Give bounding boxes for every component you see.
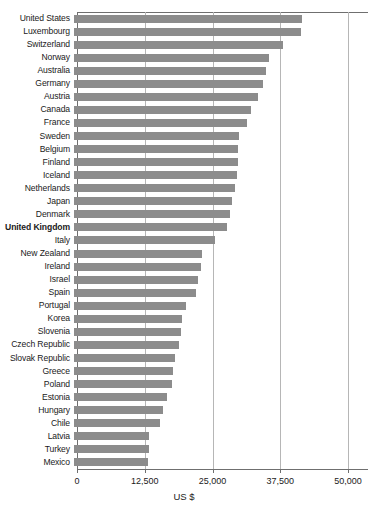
bar: [74, 223, 227, 231]
category-label: Turkey: [0, 445, 74, 454]
bar-row: Denmark: [0, 208, 376, 221]
bar-row: Spain: [0, 286, 376, 299]
bar: [74, 54, 269, 62]
category-label: United Kingdom: [0, 223, 74, 232]
bar-row: United States: [0, 12, 376, 25]
bar-track: [74, 77, 376, 90]
bar: [74, 93, 258, 101]
category-label: Mexico: [0, 458, 74, 467]
bar: [74, 132, 239, 140]
bar-track: [74, 25, 376, 38]
category-label: Netherlands: [0, 184, 74, 193]
bar-row: France: [0, 116, 376, 129]
bar-track: [74, 208, 376, 221]
bar-row: Portugal: [0, 299, 376, 312]
tick-mark: [348, 469, 349, 473]
category-label: Sweden: [0, 132, 74, 141]
bar-track: [74, 51, 376, 64]
bar-row: Hungary: [0, 404, 376, 417]
bar-track: [74, 456, 376, 469]
bar-row: Turkey: [0, 443, 376, 456]
bar-track: [74, 64, 376, 77]
category-label: Portugal: [0, 301, 74, 310]
bar-row: Estonia: [0, 391, 376, 404]
bar-track: [74, 260, 376, 273]
bar-row: Korea: [0, 312, 376, 325]
bar: [74, 41, 283, 49]
bar: [74, 210, 230, 218]
bar-row: Slovenia: [0, 325, 376, 338]
bar-track: [74, 273, 376, 286]
bar: [74, 236, 215, 244]
category-label: Canada: [0, 105, 74, 114]
category-label: Finland: [0, 158, 74, 167]
bar-row: Luxembourg: [0, 25, 376, 38]
bar-row: Australia: [0, 64, 376, 77]
bar-track: [74, 378, 376, 391]
category-label: Switzerland: [0, 40, 74, 49]
category-label: France: [0, 118, 74, 127]
bar-row: Slovak Republic: [0, 351, 376, 364]
bar-track: [74, 312, 376, 325]
bar-track: [74, 38, 376, 51]
bar-track: [74, 195, 376, 208]
category-label: Poland: [0, 380, 74, 389]
bar-track: [74, 286, 376, 299]
bar-row: Switzerland: [0, 38, 376, 51]
category-label: Hungary: [0, 406, 74, 415]
bar: [74, 15, 302, 23]
bar-track: [74, 130, 376, 143]
bar-track: [74, 12, 376, 25]
bar: [74, 315, 182, 323]
bar-row: Latvia: [0, 430, 376, 443]
x-tick-label: 37,500: [266, 476, 294, 486]
bar-row: Austria: [0, 90, 376, 103]
bar-track: [74, 116, 376, 129]
bar: [74, 28, 301, 36]
bar-row: Italy: [0, 234, 376, 247]
tick-mark: [77, 469, 78, 473]
bar-row: Ireland: [0, 260, 376, 273]
bar: [74, 445, 149, 453]
category-label: Chile: [0, 419, 74, 428]
tick-mark: [145, 469, 146, 473]
bar: [74, 67, 266, 75]
bar-row: Greece: [0, 365, 376, 378]
bar-track: [74, 430, 376, 443]
category-label: Korea: [0, 314, 74, 323]
category-label: United States: [0, 14, 74, 23]
bar-row: Sweden: [0, 130, 376, 143]
bar-row: Czech Republic: [0, 338, 376, 351]
category-label: Slovenia: [0, 327, 74, 336]
bar-rows: United StatesLuxembourgSwitzerlandNorway…: [0, 12, 376, 469]
bar: [74, 276, 198, 284]
bar: [74, 184, 235, 192]
category-label: Luxembourg: [0, 27, 74, 36]
bar-row: Belgium: [0, 143, 376, 156]
bar: [74, 367, 173, 375]
bar: [74, 419, 160, 427]
bar: [74, 106, 251, 114]
x-axis-line: [77, 469, 368, 470]
bar-track: [74, 351, 376, 364]
bar-track: [74, 90, 376, 103]
bar-row: Israel: [0, 273, 376, 286]
bar-track: [74, 247, 376, 260]
tick-mark: [213, 469, 214, 473]
bar: [74, 145, 238, 153]
x-tick-label: 12,500: [131, 476, 159, 486]
tick-mark: [280, 469, 281, 473]
bar-row: Norway: [0, 51, 376, 64]
bar-row: United Kingdom: [0, 221, 376, 234]
category-label: Italy: [0, 236, 74, 245]
category-label: Japan: [0, 197, 74, 206]
bar-row: Canada: [0, 103, 376, 116]
bar-row: Japan: [0, 195, 376, 208]
bar-track: [74, 182, 376, 195]
category-label: Norway: [0, 53, 74, 62]
bar-row: Finland: [0, 156, 376, 169]
category-label: Germany: [0, 79, 74, 88]
category-label: Latvia: [0, 432, 74, 441]
category-label: Ireland: [0, 262, 74, 271]
bar: [74, 328, 181, 336]
